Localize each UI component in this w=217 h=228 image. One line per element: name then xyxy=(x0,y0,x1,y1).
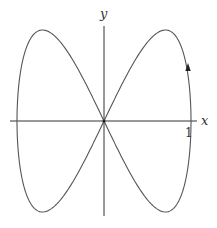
plot-canvas: y x 1 xyxy=(0,0,217,228)
origin-dot xyxy=(103,120,106,123)
x-tick-label-1: 1 xyxy=(185,126,193,140)
x-axis-label: x xyxy=(201,113,209,128)
y-axis-label: y xyxy=(99,6,108,21)
lissajous-figure: y x 1 xyxy=(0,0,217,228)
